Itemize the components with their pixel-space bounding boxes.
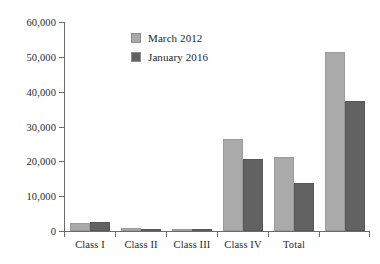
bar: [345, 101, 365, 231]
y-axis-tick: [59, 161, 64, 162]
legend-swatch-icon: [131, 33, 141, 43]
bar: [325, 52, 345, 231]
bar: [243, 159, 263, 231]
legend-swatch-icon: [131, 52, 141, 62]
bar: [274, 157, 294, 231]
bar: [121, 228, 141, 231]
y-axis-tick: [59, 92, 64, 93]
x-axis-tick: [268, 231, 269, 237]
y-axis-tick-label: 0: [51, 226, 56, 237]
bar: [90, 222, 110, 231]
legend-item-march-2012: March 2012: [131, 28, 208, 47]
legend-label: January 2016: [148, 51, 208, 63]
y-axis-tick-label: 20,000: [27, 156, 56, 167]
bar: [192, 229, 212, 231]
x-axis-tick: [115, 231, 116, 237]
y-axis-tick-label: 50,000: [27, 51, 56, 62]
y-axis-tick: [59, 22, 64, 23]
x-axis-tick: [166, 231, 167, 237]
bar: [172, 229, 192, 231]
y-axis-tick: [59, 196, 64, 197]
chart-legend: March 2012 January 2016: [131, 28, 208, 66]
y-axis-tick-label: 30,000: [27, 121, 56, 132]
x-axis-category-label: Class III: [174, 239, 211, 250]
x-axis-tick: [64, 231, 65, 237]
bar: [294, 183, 314, 231]
x-axis-tick: [319, 231, 320, 237]
x-axis-tick: [217, 231, 218, 237]
x-axis-category-label: Class IV: [224, 239, 261, 250]
bar: [70, 223, 90, 231]
legend-item-january-2016: January 2016: [131, 47, 208, 66]
x-axis-category-label: Class I: [75, 239, 105, 250]
x-axis-category-label: Total: [283, 239, 305, 250]
bar: [223, 139, 243, 231]
x-axis-tick: [369, 231, 370, 237]
bar: [141, 229, 161, 231]
plot-area: 010,00020,00030,00040,00050,00060,000Cla…: [64, 22, 370, 231]
y-axis-tick-label: 40,000: [27, 86, 56, 97]
y-axis-tick-label: 10,000: [27, 191, 56, 202]
y-axis-tick: [59, 57, 64, 58]
y-axis-tick-label: 60,000: [27, 17, 56, 28]
bar-chart: 010,00020,00030,00040,00050,00060,000Cla…: [0, 0, 380, 264]
x-axis-category-label: Class II: [124, 239, 157, 250]
legend-label: March 2012: [148, 32, 202, 44]
y-axis-tick: [59, 127, 64, 128]
